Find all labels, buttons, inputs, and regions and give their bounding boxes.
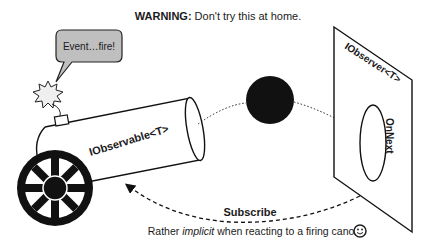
onnext-ellipse: [360, 105, 386, 181]
cannon-wheel: [17, 150, 93, 226]
fuse-cap: [54, 115, 68, 126]
speech-bubble: Event…fire!: [56, 30, 122, 82]
diagram-canvas: WARNING: Don't try this at home. Event…f…: [0, 0, 430, 252]
trajectory-dotted-1: [198, 103, 246, 124]
cannonball: [246, 76, 294, 124]
speech-bubble-text: Event…fire!: [63, 41, 115, 52]
smiley-icon: [354, 225, 366, 237]
observer-panel: IObserver<T> OnNext: [334, 27, 412, 232]
subscribe-label: Subscribe: [223, 206, 276, 218]
warning-title: WARNING: Don't try this at home.: [135, 10, 302, 22]
onnext-label: OnNext: [384, 118, 395, 154]
caption: Rather implicit when reacting to a firin…: [148, 225, 361, 237]
spark-icon: [33, 81, 63, 108]
